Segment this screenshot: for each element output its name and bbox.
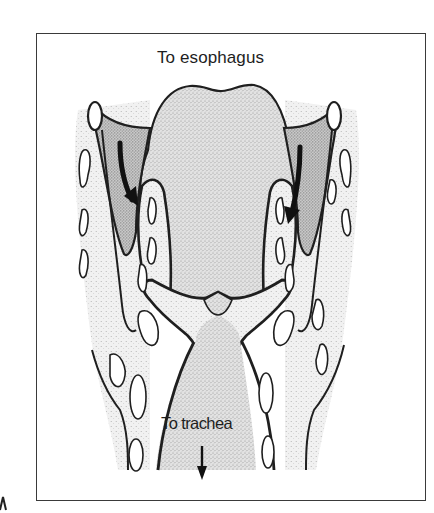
trachea-label: To trachea <box>161 414 232 433</box>
esophagus-label: To esophagus <box>157 48 264 68</box>
corner-mark <box>0 497 6 510</box>
larynx-diagram: To esophagus To trachea <box>0 0 434 513</box>
